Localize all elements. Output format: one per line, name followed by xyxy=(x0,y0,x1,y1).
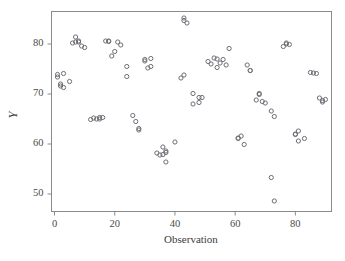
data-point xyxy=(73,35,77,39)
data-point xyxy=(269,175,273,179)
data-point xyxy=(191,91,195,95)
data-point xyxy=(125,74,129,78)
data-point xyxy=(173,140,177,144)
y-tick-label: 50 xyxy=(33,187,44,198)
data-point xyxy=(242,142,246,146)
data-point xyxy=(197,100,201,104)
data-point xyxy=(67,79,71,83)
data-point xyxy=(254,98,258,102)
data-point xyxy=(185,21,189,25)
x-tick-label: 40 xyxy=(170,218,181,229)
data-point xyxy=(134,119,138,123)
data-point xyxy=(61,71,65,75)
y-axis-ticks: 50607080 xyxy=(33,37,52,198)
data-point xyxy=(296,129,300,133)
data-point xyxy=(125,64,129,68)
data-point xyxy=(182,73,186,77)
data-point xyxy=(161,145,165,149)
data-point xyxy=(191,102,195,106)
data-point xyxy=(131,113,135,117)
y-tick-label: 70 xyxy=(33,87,44,98)
data-point xyxy=(149,56,153,60)
data-point xyxy=(269,109,273,113)
plot-frame xyxy=(52,12,332,212)
x-axis-ticks: 020406080 xyxy=(52,212,301,229)
data-point xyxy=(110,54,114,58)
data-points-layer xyxy=(55,16,327,203)
data-point xyxy=(272,114,276,118)
data-point xyxy=(221,57,225,61)
plot-svg: 50607080 020406080 Observation Y xyxy=(0,0,345,261)
data-point xyxy=(248,68,252,72)
data-point xyxy=(224,63,228,67)
data-point xyxy=(296,139,300,143)
x-tick-label: 0 xyxy=(52,218,57,229)
y-axis-title: Y xyxy=(6,109,20,118)
data-point xyxy=(245,63,249,67)
y-tick-label: 60 xyxy=(33,137,44,148)
data-point xyxy=(209,62,213,66)
data-point xyxy=(164,160,168,164)
data-point xyxy=(215,65,219,69)
x-tick-label: 20 xyxy=(109,218,120,229)
data-point xyxy=(227,46,231,50)
scatter-plot-figure: 50607080 020406080 Observation Y xyxy=(0,0,345,261)
y-tick-label: 80 xyxy=(33,37,44,48)
data-point xyxy=(119,43,123,47)
data-point xyxy=(302,136,306,140)
data-point xyxy=(272,199,276,203)
x-tick-label: 60 xyxy=(230,218,241,229)
x-axis-title: Observation xyxy=(164,233,218,245)
x-tick-label: 80 xyxy=(290,218,301,229)
data-point xyxy=(113,49,117,53)
data-point xyxy=(200,95,204,99)
